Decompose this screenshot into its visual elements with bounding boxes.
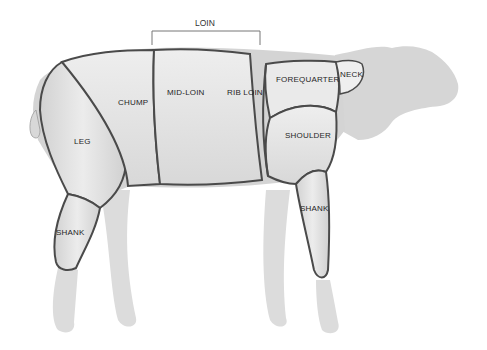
label-leg: LEG: [74, 137, 91, 146]
lamb-cuts-illustration: [0, 0, 487, 350]
cut-fore-shank: [296, 171, 329, 278]
label-loin: LOIN: [195, 18, 215, 28]
label-shoulder: SHOULDER: [285, 131, 331, 140]
label-hind-shank: SHANK: [56, 228, 85, 237]
label-rib-loin: RIB LOIN: [227, 88, 263, 97]
loin-bracket: [152, 31, 260, 45]
label-chump: CHUMP: [118, 98, 148, 107]
label-neck: NECK: [340, 70, 363, 79]
label-mid-loin: MID-LOIN: [167, 88, 205, 97]
label-fore-shank: SHANK: [300, 204, 329, 213]
label-forequarter: FOREQUARTER: [276, 75, 339, 84]
